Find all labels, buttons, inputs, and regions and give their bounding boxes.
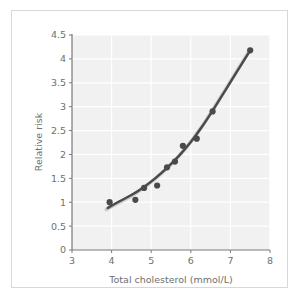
data-point [247, 47, 253, 53]
y-tick-label: 2.5 [51, 125, 66, 136]
y-tick-label: 1.5 [51, 173, 66, 184]
data-point [132, 197, 138, 203]
figure-container: 345678 00.511.522.533.544.5 Total choles… [0, 0, 305, 304]
x-tick-label: 3 [69, 255, 75, 266]
data-point [180, 143, 186, 149]
x-tick-label: 7 [227, 255, 233, 266]
data-point [209, 108, 215, 114]
x-tick-label: 8 [267, 255, 273, 266]
data-point [194, 136, 200, 142]
data-point [141, 185, 147, 191]
y-tick-label: 0 [60, 244, 66, 255]
data-point [107, 199, 113, 205]
y-tick-label: 4.5 [51, 29, 66, 40]
x-tick-label: 4 [109, 255, 115, 266]
y-tick-label: 2 [60, 149, 66, 160]
relative-risk-chart: 345678 00.511.522.533.544.5 Total choles… [0, 0, 305, 304]
x-tick-labels: 345678 [69, 255, 273, 266]
y-axis-title: Relative risk [33, 112, 44, 171]
y-tick-label: 3.5 [51, 77, 66, 88]
y-tick-labels: 00.511.522.533.544.5 [51, 29, 66, 255]
data-point [164, 164, 170, 170]
data-point [172, 159, 178, 165]
x-tick-label: 6 [188, 255, 194, 266]
data-point [154, 182, 160, 188]
y-tick-label: 1 [60, 197, 66, 208]
y-tick-label: 4 [60, 53, 66, 64]
y-tick-label: 3 [60, 101, 66, 112]
x-tick-label: 5 [148, 255, 154, 266]
y-tick-label: 0.5 [51, 221, 66, 232]
x-axis-title: Total cholesterol (mmol/L) [108, 274, 232, 285]
